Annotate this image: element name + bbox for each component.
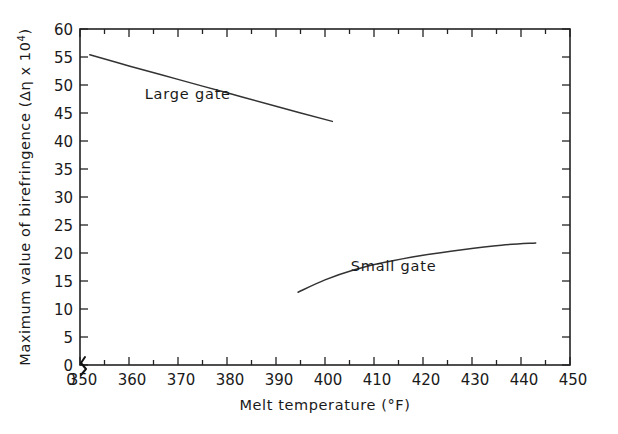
x-axis-ticks <box>80 29 570 365</box>
x-tick-label: 390 <box>265 371 294 389</box>
x-tick-label: 440 <box>510 371 539 389</box>
y-tick-label: 60 <box>54 21 73 39</box>
plot-frame-rect <box>80 29 570 365</box>
birefringence-vs-melt-temperature-chart: 0350360370380390400410420430440450 05101… <box>0 0 618 434</box>
y-tick-label: 45 <box>54 105 73 123</box>
series-label: Large gate <box>145 86 231 102</box>
y-tick-label: 50 <box>54 77 73 95</box>
x-tick-label: 400 <box>314 371 343 389</box>
y-axis-title-exponent: 4 <box>16 35 27 42</box>
y-tick-label: 20 <box>54 245 73 263</box>
y-tick-label: 0 <box>63 357 73 375</box>
y-tick-label: 55 <box>54 49 73 67</box>
x-tick-label: 370 <box>167 371 196 389</box>
y-axis-title: Maximum value of birefringence (Δη x 104… <box>16 28 33 365</box>
y-axis-ticks <box>80 29 570 365</box>
y-tick-label: 40 <box>54 133 73 151</box>
y-tick-label: 5 <box>63 329 73 347</box>
y-tick-label: 10 <box>54 301 73 319</box>
x-tick-label: 420 <box>412 371 441 389</box>
y-tick-label: 35 <box>54 161 73 179</box>
plot-frame <box>80 29 570 365</box>
x-axis-title: Melt temperature (°F) <box>239 397 410 413</box>
y-axis-tick-labels: 051015202530354045505560 <box>54 21 73 375</box>
x-tick-label: 380 <box>216 371 245 389</box>
series-annotations: Large gateSmall gate <box>145 86 437 274</box>
series-label: Small gate <box>351 258 437 274</box>
y-tick-label: 25 <box>54 217 73 235</box>
x-tick-label: 360 <box>118 371 147 389</box>
y-tick-label: 15 <box>54 273 73 291</box>
x-axis-tick-labels: 0350360370380390400410420430440450 <box>66 371 587 389</box>
y-axis-title-main: Maximum value of birefringence (Δη x 10 <box>17 42 33 366</box>
x-tick-label: 430 <box>461 371 490 389</box>
chart-canvas: 0350360370380390400410420430440450 05101… <box>0 0 618 434</box>
y-tick-label: 30 <box>54 189 73 207</box>
x-tick-label: 410 <box>363 371 392 389</box>
y-axis-title-tail: ) <box>17 28 33 34</box>
x-tick-label: 450 <box>559 371 588 389</box>
